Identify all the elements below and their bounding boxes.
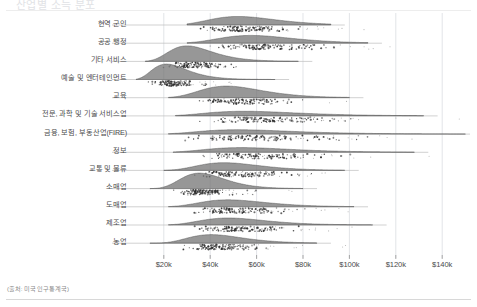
footer-divider bbox=[6, 299, 471, 300]
observation-points bbox=[199, 98, 347, 105]
density-row bbox=[129, 46, 312, 69]
y-axis-tick-label: 정보 bbox=[113, 146, 127, 155]
observation-points bbox=[210, 44, 391, 51]
density-curve bbox=[173, 148, 414, 153]
density-row bbox=[129, 111, 460, 123]
observation-points bbox=[199, 116, 460, 123]
density-rows bbox=[129, 17, 470, 251]
density-row bbox=[129, 218, 387, 232]
density-curve bbox=[164, 163, 345, 171]
density-curve bbox=[187, 35, 368, 43]
y-axis-tick-label: 금융, 보험, 부동산업(FIRE) bbox=[44, 128, 127, 137]
y-axis-tick-label: 기타 서비스 bbox=[91, 55, 127, 64]
source-note: (출처: 미국 인구통계국) bbox=[7, 284, 69, 293]
density-curve bbox=[168, 86, 349, 98]
chart-figure: 산업별 소득 분포 현역 군인공공 행정기타 서비스예술 및 엔터테인먼트교육전… bbox=[0, 0, 477, 307]
observation-points bbox=[184, 134, 412, 141]
density-row bbox=[129, 130, 470, 142]
observation-points bbox=[173, 189, 292, 196]
density-row bbox=[129, 200, 368, 214]
x-axis-tick-label: $100k bbox=[339, 260, 359, 269]
observation-points bbox=[200, 25, 365, 32]
y-axis-tick-label: 현역 군인 bbox=[98, 19, 128, 28]
x-axis-tick-label: $60k bbox=[249, 260, 265, 269]
y-axis-tick-label: 교육 bbox=[113, 91, 127, 100]
density-curve bbox=[145, 46, 298, 62]
density-row bbox=[129, 35, 391, 50]
x-axis-tick-label: $20k bbox=[156, 260, 172, 269]
y-axis-tick-label: 교통 및 물류 bbox=[89, 164, 127, 173]
y-axis-tick-label: 소매업 bbox=[106, 182, 127, 191]
density-row bbox=[129, 148, 430, 160]
density-curve bbox=[187, 17, 331, 26]
y-axis-tick-label: 예술 및 엔터테인먼트 bbox=[61, 73, 127, 82]
observation-points bbox=[148, 80, 232, 87]
density-curve bbox=[168, 218, 372, 225]
y-axis-tick-label: 도매업 bbox=[106, 200, 127, 209]
x-axis-labels: $20k$40k$60k$80k$100k$120k$140k bbox=[0, 258, 477, 274]
y-axis-tick-label: 공공 행정 bbox=[98, 37, 128, 46]
density-curve bbox=[168, 130, 465, 134]
y-axis-labels: 현역 군인공공 행정기타 서비스예술 및 엔터테인먼트교육전문, 과학 및 기술… bbox=[0, 0, 127, 260]
x-axis-tick-label: $120k bbox=[386, 260, 406, 269]
x-axis-tick-label: $80k bbox=[295, 260, 311, 269]
density-curve bbox=[168, 200, 354, 207]
density-row bbox=[129, 235, 346, 251]
x-axis-tick-label: $140k bbox=[432, 260, 452, 269]
y-axis-tick-label: 전문, 과학 및 기술 서비스업 bbox=[42, 109, 127, 118]
density-row bbox=[129, 86, 363, 105]
observation-points bbox=[193, 207, 348, 214]
density-row bbox=[129, 17, 365, 33]
observation-points bbox=[194, 225, 353, 232]
density-curve bbox=[150, 235, 317, 244]
density-curve bbox=[175, 111, 423, 116]
y-axis-tick-label: 농업 bbox=[113, 237, 127, 246]
y-axis-tick-label: 제조업 bbox=[106, 218, 127, 227]
observation-points bbox=[182, 243, 346, 250]
x-axis-tick-label: $40k bbox=[202, 260, 218, 269]
